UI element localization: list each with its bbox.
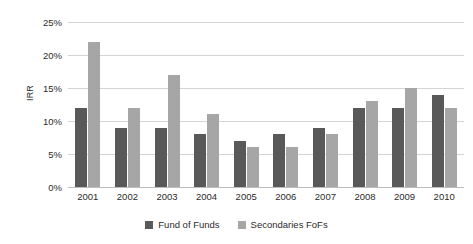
bar xyxy=(353,108,365,187)
x-axis-tick-label: 2004 xyxy=(187,191,227,202)
bar xyxy=(75,108,87,187)
bar xyxy=(313,128,325,187)
legend-swatch-icon xyxy=(145,221,153,229)
bar xyxy=(326,134,338,187)
legend-item[interactable]: Fund of Funds xyxy=(145,219,219,230)
bar-group xyxy=(227,22,266,187)
chart-legend: Fund of FundsSecondaries FoFs xyxy=(0,219,473,230)
x-axis-tick-label: 2010 xyxy=(424,191,464,202)
x-axis-tick-label: 2002 xyxy=(108,191,148,202)
legend-swatch-icon xyxy=(238,221,246,229)
y-axis-tick-label: 0% xyxy=(20,182,62,193)
axis-baseline xyxy=(68,187,464,188)
bar xyxy=(115,128,127,187)
bars-layer xyxy=(68,22,464,187)
bar-group xyxy=(187,22,226,187)
bar xyxy=(432,95,444,187)
bar-group xyxy=(68,22,107,187)
bar-group xyxy=(148,22,187,187)
bar-chart: IRR 0%5%10%15%20%25% 2001200220032004200… xyxy=(0,0,473,244)
bar xyxy=(273,134,285,187)
x-axis-tick-label: 2007 xyxy=(306,191,346,202)
y-axis-tick-label: 5% xyxy=(20,149,62,160)
legend-label: Fund of Funds xyxy=(158,219,219,230)
bar xyxy=(366,101,378,187)
bar-group xyxy=(385,22,424,187)
y-axis-tick-label: 15% xyxy=(20,83,62,94)
x-axis-tick-labels: 2001200220032004200520062007200820092010 xyxy=(68,191,464,207)
bar xyxy=(194,134,206,187)
y-axis-tick-label: 20% xyxy=(20,50,62,61)
x-axis-tick-label: 2005 xyxy=(226,191,266,202)
legend-item[interactable]: Secondaries FoFs xyxy=(238,219,328,230)
bar xyxy=(234,141,246,187)
bar xyxy=(128,108,140,187)
bar xyxy=(207,114,219,187)
bar xyxy=(405,88,417,187)
x-axis-tick-label: 2001 xyxy=(68,191,108,202)
x-axis-tick-label: 2009 xyxy=(385,191,425,202)
x-axis-tick-label: 2008 xyxy=(345,191,385,202)
bar xyxy=(168,75,180,187)
plot-area: 0%5%10%15%20%25% xyxy=(68,22,464,187)
y-axis-tick-label: 10% xyxy=(20,116,62,127)
bar xyxy=(247,147,259,187)
bar xyxy=(445,108,457,187)
bar xyxy=(286,147,298,187)
bar xyxy=(155,128,167,187)
bar-group xyxy=(306,22,345,187)
bar xyxy=(392,108,404,187)
bar-group xyxy=(266,22,305,187)
bar-group xyxy=(108,22,147,187)
bar xyxy=(88,42,100,187)
bar-group xyxy=(425,22,464,187)
y-axis-tick-label: 25% xyxy=(20,17,62,28)
x-axis-tick-label: 2006 xyxy=(266,191,306,202)
x-axis-tick-label: 2003 xyxy=(147,191,187,202)
bar-group xyxy=(346,22,385,187)
legend-label: Secondaries FoFs xyxy=(251,219,328,230)
